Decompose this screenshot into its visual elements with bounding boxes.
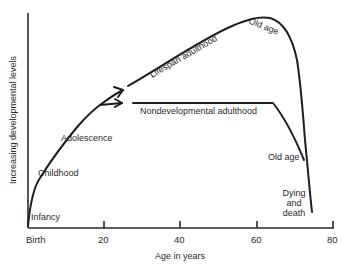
label-childhood: Childhood xyxy=(38,168,79,178)
label-infancy: Infancy xyxy=(31,212,61,222)
label-old-age-top: Old age xyxy=(247,16,280,37)
y-axis-title: Increasing developmental levels xyxy=(8,55,18,184)
label-dying-line1: Dying xyxy=(282,188,305,198)
x-tick-label-birth: Birth xyxy=(26,234,46,245)
label-old-age-lower: Old age xyxy=(268,152,300,162)
development-diagram: Birth 20 40 60 80 Age in years Increasin… xyxy=(0,0,348,268)
x-tick-label-20: 20 xyxy=(98,234,109,245)
x-tick-label-80: 80 xyxy=(327,234,338,245)
label-adolescence: Adolescence xyxy=(61,133,113,143)
label-nondevelopmental-adulthood: Nondevelopmental adulthood xyxy=(140,106,257,116)
early-development-curve xyxy=(28,90,123,226)
x-axis-title: Age in years xyxy=(155,251,206,261)
x-tick-label-40: 40 xyxy=(174,234,185,245)
label-dying-line2: and xyxy=(286,198,301,208)
x-tick-label-60: 60 xyxy=(251,234,262,245)
label-dying-line3: death xyxy=(283,208,306,218)
label-lifespan-adulthood: Lifespan adulthood xyxy=(148,33,219,80)
